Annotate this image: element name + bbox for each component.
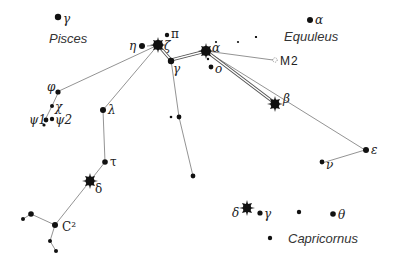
star-faint bbox=[21, 217, 25, 221]
star-chart: γ η ζ π γ α ο α M2 β ε ν φ χ ψ1 ψ2 λ τ δ… bbox=[0, 0, 398, 265]
star-cap-delta bbox=[239, 200, 255, 216]
label-tau: τ bbox=[110, 155, 117, 169]
label-pisces-gamma: γ bbox=[63, 12, 71, 26]
stars bbox=[21, 14, 369, 253]
label-chi: χ bbox=[54, 100, 63, 114]
label-lambda: λ bbox=[107, 103, 116, 117]
label-cap-gamma: γ bbox=[264, 207, 272, 221]
label-omicron: ο bbox=[215, 62, 222, 76]
star-cap-theta bbox=[330, 211, 336, 217]
label-phi: φ bbox=[47, 80, 56, 94]
label-beta: β bbox=[282, 92, 290, 106]
star-pisces-gamma bbox=[55, 14, 61, 20]
star-faint bbox=[191, 174, 196, 179]
star-faint bbox=[170, 116, 173, 119]
label-m2: M2 bbox=[280, 54, 299, 68]
star-faint bbox=[28, 211, 34, 217]
star-faint bbox=[207, 58, 209, 60]
label-gamma: γ bbox=[173, 62, 181, 76]
label-zeta: ζ bbox=[164, 39, 172, 53]
label-alpha: α bbox=[212, 41, 220, 55]
constellation-names: Pisces Equuleus Capricornus bbox=[49, 29, 359, 246]
label-delta: δ bbox=[95, 182, 102, 196]
star-faint bbox=[48, 239, 52, 243]
star-equuleus-alpha bbox=[307, 17, 313, 23]
star-pi bbox=[165, 33, 169, 37]
label-epsilon: ε bbox=[371, 143, 377, 157]
constellation-pisces: Pisces bbox=[49, 31, 88, 46]
star-faint bbox=[177, 115, 182, 120]
label-nu: ν bbox=[326, 158, 333, 172]
star-faint bbox=[237, 41, 239, 43]
constellation-equuleus: Equuleus bbox=[284, 29, 339, 44]
star-eta bbox=[139, 43, 145, 49]
star-faint bbox=[297, 210, 301, 214]
star-lambda bbox=[100, 107, 106, 113]
star-faint bbox=[255, 36, 257, 38]
star-cap-gamma bbox=[257, 210, 262, 215]
star-psi2 bbox=[50, 117, 54, 121]
label-cap-delta: δ bbox=[232, 206, 239, 220]
label-psi2: ψ2 bbox=[55, 113, 72, 127]
label-cap-theta: θ bbox=[338, 208, 346, 222]
label-pi: π bbox=[171, 27, 179, 41]
star-faint bbox=[54, 249, 58, 253]
star-c2 bbox=[52, 222, 58, 228]
constellation-capricornus: Capricornus bbox=[288, 231, 359, 246]
star-epsilon bbox=[363, 147, 369, 153]
star-tau bbox=[102, 159, 108, 165]
m2-cluster bbox=[273, 58, 277, 62]
label-eta: η bbox=[129, 39, 137, 53]
label-psi1: ψ1 bbox=[29, 113, 46, 127]
star-nu bbox=[320, 160, 325, 165]
star-faint bbox=[268, 236, 272, 240]
label-equuleus-alpha: α bbox=[315, 13, 323, 27]
star-phi bbox=[55, 89, 60, 94]
star-omicron bbox=[209, 65, 214, 70]
label-c2: C² bbox=[62, 220, 76, 234]
star-chi bbox=[50, 104, 54, 108]
